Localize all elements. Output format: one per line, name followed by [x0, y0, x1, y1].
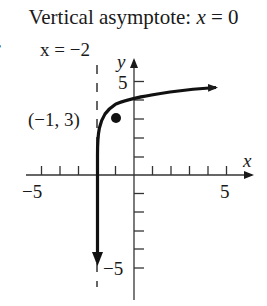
y-tick-label-neg5: −5 — [103, 258, 123, 279]
x-axis-label: x — [242, 150, 252, 171]
x-tick-label-5: 5 — [220, 181, 230, 202]
y-axis-label: y — [115, 51, 126, 72]
graph: x = −2 (−1, 3) y x −5 5 5 −5 — [0, 0, 267, 306]
asymptote-label: x = −2 — [40, 39, 90, 60]
down-arrowhead — [92, 252, 103, 266]
point-neg1-3 — [111, 113, 121, 123]
x-tick-label-neg5: −5 — [22, 181, 42, 202]
point-label: (−1, 3) — [28, 109, 80, 131]
y-tick-label-5: 5 — [118, 72, 128, 93]
